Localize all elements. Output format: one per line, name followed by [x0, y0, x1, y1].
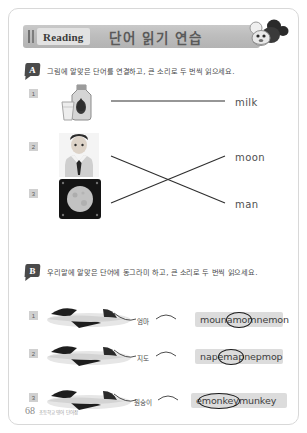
section-a-instruction: 그림에 알맞은 단어를 연결하고, 큰 소리로 두 번씩 읽으세요.: [47, 66, 234, 76]
item-number-badge: 1: [29, 89, 38, 98]
header-korean-title: 단어 읽기 연습: [109, 27, 202, 47]
header-tick-icon: [32, 30, 34, 43]
man-in-suit-icon: [59, 133, 99, 177]
page-number: 68: [25, 405, 35, 416]
word-chip-row2[interactable]: napemapnepmop: [195, 349, 283, 364]
match-word-milk: milk: [235, 97, 258, 108]
word-suffix: nepmop: [244, 351, 282, 362]
word-chip-row1[interactable]: mounamomnemon: [195, 312, 283, 327]
milk-bottle-icon: [57, 81, 101, 123]
item-number-badge: 2: [29, 349, 38, 358]
word-answer: monkey: [202, 395, 239, 406]
match-word-moon: moon: [235, 152, 265, 163]
item-number-badge: 3: [29, 189, 38, 198]
connector-line: [114, 390, 194, 412]
word-answer: mom: [232, 314, 256, 325]
match-word-man: man: [235, 199, 258, 210]
page-footer: 68 초등학교 영어 단어장: [25, 405, 78, 416]
mouse-mascot-icon: [247, 19, 289, 51]
word-prefix: nape: [200, 351, 223, 362]
item-number-badge: 2: [29, 142, 38, 151]
moon-photo-icon: [59, 179, 101, 219]
word-suffix: munkey: [239, 395, 276, 406]
item-number-badge: 1: [29, 311, 38, 320]
word-prefix: mouna: [200, 314, 232, 325]
section-b-marker: B: [25, 264, 41, 277]
connector-line: [114, 309, 194, 331]
word-chip-row3[interactable]: emonkeymunkey: [191, 393, 287, 408]
connector-line: [114, 346, 194, 368]
word-answer: map: [223, 351, 244, 362]
section-a-marker: A: [25, 63, 41, 76]
section-b-instruction: 우리말에 알맞은 단어에 동그라미 하고, 큰 소리로 두 번씩 읽으세요.: [47, 267, 257, 277]
word-suffix: nemon: [256, 314, 288, 325]
worksheet-page: Reading 단어 읽기 연습 A 그림에 알맞은 단어를 연결하고, 큰 소…: [8, 8, 299, 425]
page-header: Reading 단어 읽기 연습: [23, 25, 285, 49]
footer-note: 초등학교 영어 단어장: [39, 409, 78, 416]
item-number-badge: 3: [29, 393, 38, 402]
header-tick-icon: [28, 30, 30, 43]
reading-label: Reading: [37, 28, 90, 45]
